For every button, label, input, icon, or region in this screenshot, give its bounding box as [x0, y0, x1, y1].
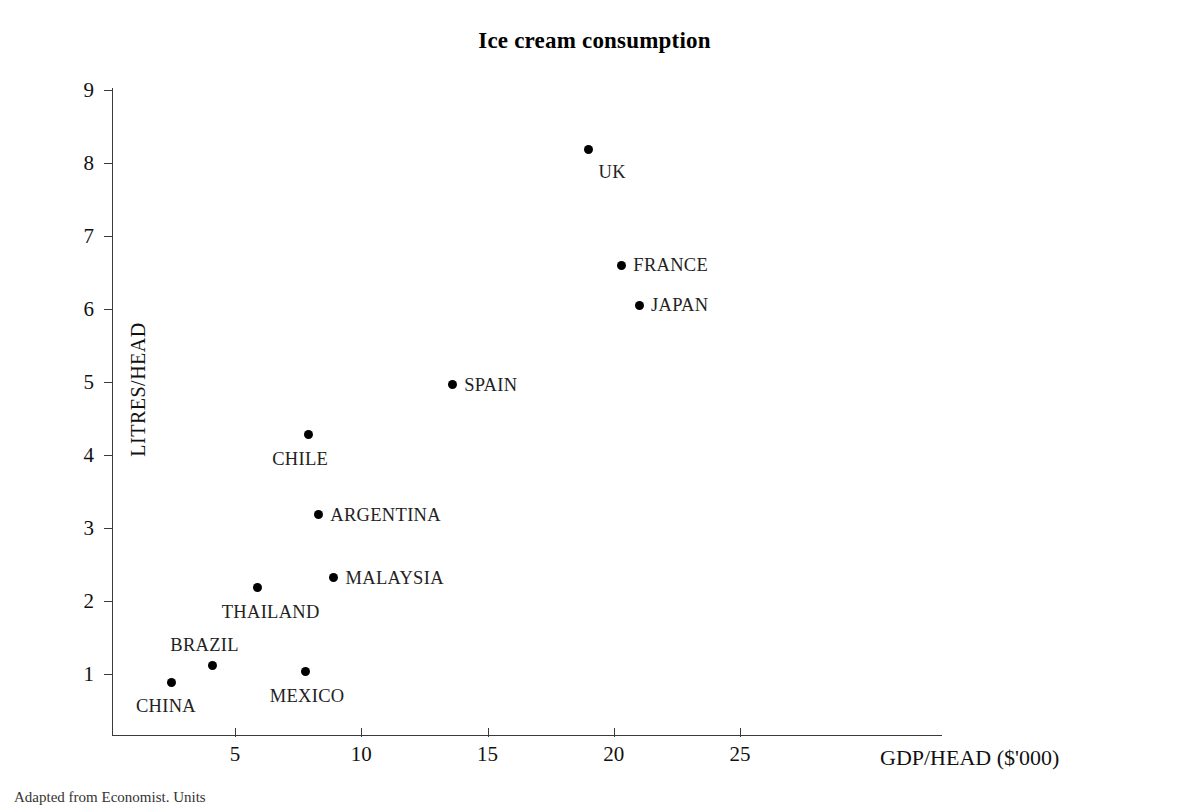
data-point[interactable]	[253, 583, 262, 592]
data-point-label: MALAYSIA	[345, 568, 443, 589]
data-point[interactable]	[448, 380, 457, 389]
y-tick-label: 4	[54, 443, 94, 468]
data-point[interactable]	[329, 573, 338, 582]
data-point-label: UK	[599, 162, 626, 183]
data-point[interactable]	[304, 430, 313, 439]
data-point-label: CHINA	[136, 696, 196, 717]
data-point[interactable]	[314, 510, 323, 519]
y-tick-label: 9	[54, 78, 94, 103]
figure-caption: Adapted from Economist. Units	[14, 789, 206, 806]
y-tick-label: 7	[54, 224, 94, 249]
plot-area: LITRES/HEAD UKFRANCEJAPANSPAINCHILEARGEN…	[112, 88, 942, 735]
data-point-label: THAILAND	[222, 602, 320, 623]
data-point[interactable]	[208, 661, 217, 670]
y-tick-label: 1	[54, 662, 94, 687]
y-tick-label: 8	[54, 151, 94, 176]
data-point[interactable]	[167, 678, 176, 687]
chart-title: Ice cream consumption	[0, 28, 1189, 54]
data-point-label: JAPAN	[651, 295, 708, 316]
y-tick-label: 2	[54, 589, 94, 614]
data-point[interactable]	[584, 145, 593, 154]
data-point[interactable]	[635, 301, 644, 310]
x-axis-line	[112, 735, 942, 736]
data-point[interactable]	[617, 261, 626, 270]
x-axis-title: GDP/HEAD ($'000)	[880, 745, 1059, 771]
x-tick-label: 25	[710, 742, 770, 767]
y-axis-title: LITRES/HEAD	[127, 260, 150, 520]
scatter-chart: Ice cream consumption 123456789 51015202…	[0, 0, 1189, 806]
data-point-label: BRAZIL	[170, 635, 239, 656]
data-point-label: CHILE	[272, 449, 328, 470]
x-tick-label: 10	[331, 742, 391, 767]
data-point-label: ARGENTINA	[330, 505, 441, 526]
data-point-label: FRANCE	[633, 255, 708, 276]
data-point[interactable]	[301, 667, 310, 676]
data-point-label: SPAIN	[464, 375, 517, 396]
x-tick-label: 5	[205, 742, 265, 767]
y-tick-label: 3	[54, 516, 94, 541]
x-tick-label: 15	[458, 742, 518, 767]
y-tick-label: 6	[54, 297, 94, 322]
data-point-label: MEXICO	[270, 686, 345, 707]
y-tick-label: 5	[54, 370, 94, 395]
x-tick-label: 20	[584, 742, 644, 767]
